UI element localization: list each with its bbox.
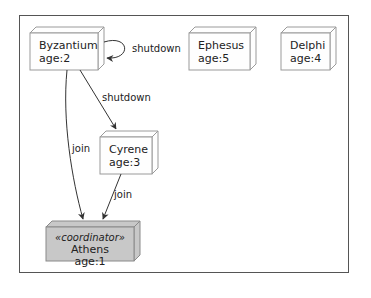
node-athens-coordinator[interactable]: «coordinator» Athens age:1: [46, 221, 140, 268]
deployment-diagram: Byzantium age:2 Ephesus age:5 Delphi age…: [0, 0, 371, 298]
node-byzantium[interactable]: Byzantium age:2: [30, 27, 104, 70]
node-ephesus-name: Ephesus: [198, 39, 244, 52]
node-ephesus-age: age:5: [198, 52, 229, 65]
node-cyrene-name: Cyrene: [109, 143, 148, 156]
edge-label-join-cyrene: join: [113, 189, 132, 200]
edge-label-shutdown: shutdown: [102, 92, 151, 103]
node-cyrene[interactable]: Cyrene age:3: [100, 131, 158, 174]
edge-label-join-byzantium: join: [71, 143, 90, 154]
node-delphi-age: age:4: [290, 52, 321, 65]
node-delphi[interactable]: Delphi age:4: [281, 27, 336, 70]
node-cyrene-age: age:3: [109, 156, 140, 169]
node-athens-stereotype: «coordinator»: [55, 232, 125, 243]
node-byzantium-name: Byzantium: [39, 39, 98, 52]
edge-label-self-shutdown: shutdown: [132, 43, 181, 54]
node-athens-age: age:1: [74, 255, 105, 268]
node-delphi-name: Delphi: [290, 39, 325, 52]
node-ephesus[interactable]: Ephesus age:5: [189, 27, 256, 70]
node-byzantium-age: age:2: [39, 52, 70, 65]
